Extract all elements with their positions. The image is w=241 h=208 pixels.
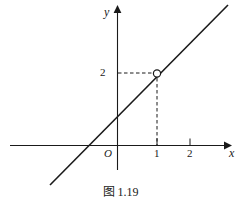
plot-canvas — [0, 0, 241, 208]
y-tick-label-2: 2 — [100, 67, 106, 78]
x-tick-label-1: 1 — [154, 148, 160, 159]
origin-label: O — [104, 148, 112, 159]
open-circle-point — [153, 70, 160, 77]
function-line — [50, 5, 228, 185]
x-axis — [10, 142, 232, 150]
figure-container: y x O 2 1 2 图 1.19 — [0, 0, 241, 208]
figure-caption: 图 1.19 — [0, 186, 241, 199]
y-axis-label: y — [104, 6, 109, 18]
y-axis-arrowhead — [114, 5, 122, 13]
x-axis-ticks — [157, 139, 190, 146]
x-axis-label: x — [229, 147, 234, 159]
x-tick-label-2: 2 — [187, 148, 193, 159]
